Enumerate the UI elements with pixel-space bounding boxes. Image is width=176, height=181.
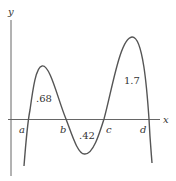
root-label-c: c — [106, 124, 112, 135]
y-axis-label: y — [7, 6, 14, 17]
root-label-a: a — [19, 124, 25, 135]
root-label-b: b — [60, 124, 66, 135]
area-label-cd: 1.7 — [124, 75, 140, 86]
area-label-ab: .68 — [36, 93, 52, 104]
root-label-d: d — [140, 124, 146, 135]
area-under-curve-diagram: y x a b c d .68 .42 1.7 — [0, 0, 176, 181]
x-axis-label: x — [163, 114, 169, 125]
area-label-bc: .42 — [79, 130, 95, 141]
